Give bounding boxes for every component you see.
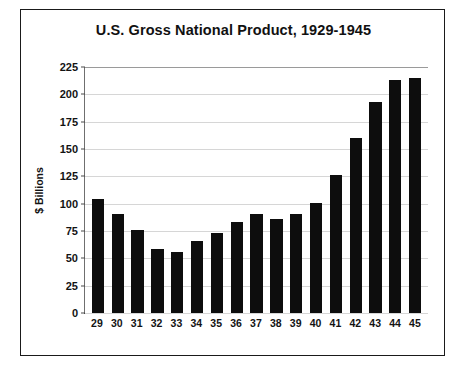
- bar: [409, 78, 421, 313]
- bar-slot: [227, 67, 247, 313]
- bar: [171, 252, 183, 313]
- bar: [369, 102, 381, 313]
- bar: [131, 230, 143, 313]
- y-tick-label: 25: [66, 280, 78, 292]
- x-tick-label: 35: [206, 317, 226, 329]
- bar: [310, 203, 322, 313]
- y-tick-label: 150: [60, 143, 78, 155]
- bar: [290, 214, 302, 313]
- x-tick-label: 42: [345, 317, 365, 329]
- bar: [92, 199, 104, 313]
- chart-screenshot: U.S. Gross National Product, 1929-1945 $…: [0, 0, 462, 373]
- bar-slot: [108, 67, 128, 313]
- x-tick-label: 34: [186, 317, 206, 329]
- x-tick-label: 38: [266, 317, 286, 329]
- y-tick-label: 100: [60, 198, 78, 210]
- bar-slot: [366, 67, 386, 313]
- bar: [211, 233, 223, 313]
- bar: [389, 80, 401, 313]
- x-tick-label: 41: [326, 317, 346, 329]
- bar: [231, 222, 243, 313]
- y-tick-label: 225: [60, 61, 78, 73]
- x-axis-ticks: 2930313233343536373839404142434445: [84, 317, 428, 329]
- bar-slot: [187, 67, 207, 313]
- x-tick-label: 30: [107, 317, 127, 329]
- x-tick-label: 36: [226, 317, 246, 329]
- y-tick-label: 200: [60, 88, 78, 100]
- bar-slot: [266, 67, 286, 313]
- x-tick-label: 32: [147, 317, 167, 329]
- bar-slot: [247, 67, 267, 313]
- bar-slot: [346, 67, 366, 313]
- bar: [350, 138, 362, 313]
- bar: [270, 219, 282, 313]
- x-tick-label: 43: [365, 317, 385, 329]
- y-tick-label: 0: [72, 307, 78, 319]
- x-tick-label: 31: [127, 317, 147, 329]
- bar-slot: [167, 67, 187, 313]
- y-tick-label: 50: [66, 252, 78, 264]
- x-tick-label: 45: [405, 317, 425, 329]
- bar: [250, 214, 262, 313]
- bar-series: [85, 67, 428, 313]
- gridline: [85, 313, 428, 314]
- x-tick-label: 44: [385, 317, 405, 329]
- y-tick-label: 125: [60, 170, 78, 182]
- x-tick-label: 40: [306, 317, 326, 329]
- bar-slot: [207, 67, 227, 313]
- bar-slot: [88, 67, 108, 313]
- plot-area: 0255075100125150175200225: [84, 67, 428, 314]
- y-tick-label: 75: [66, 225, 78, 237]
- bar: [151, 249, 163, 314]
- bar-slot: [147, 67, 167, 313]
- bar-slot: [326, 67, 346, 313]
- chart-title: U.S. Gross National Product, 1929-1945: [21, 22, 446, 38]
- bar: [191, 241, 203, 313]
- y-tick-label: 175: [60, 116, 78, 128]
- x-tick-label: 33: [167, 317, 187, 329]
- y-axis-title: $ Billions: [33, 67, 47, 314]
- bar-slot: [128, 67, 148, 313]
- bar: [112, 214, 124, 313]
- bar-slot: [286, 67, 306, 313]
- bar-slot: [405, 67, 425, 313]
- x-tick-label: 39: [286, 317, 306, 329]
- x-tick-label: 37: [246, 317, 266, 329]
- bar-slot: [385, 67, 405, 313]
- bar: [330, 175, 342, 313]
- chart-frame: U.S. Gross National Product, 1929-1945 $…: [20, 9, 445, 356]
- x-tick-label: 29: [87, 317, 107, 329]
- bar-slot: [306, 67, 326, 313]
